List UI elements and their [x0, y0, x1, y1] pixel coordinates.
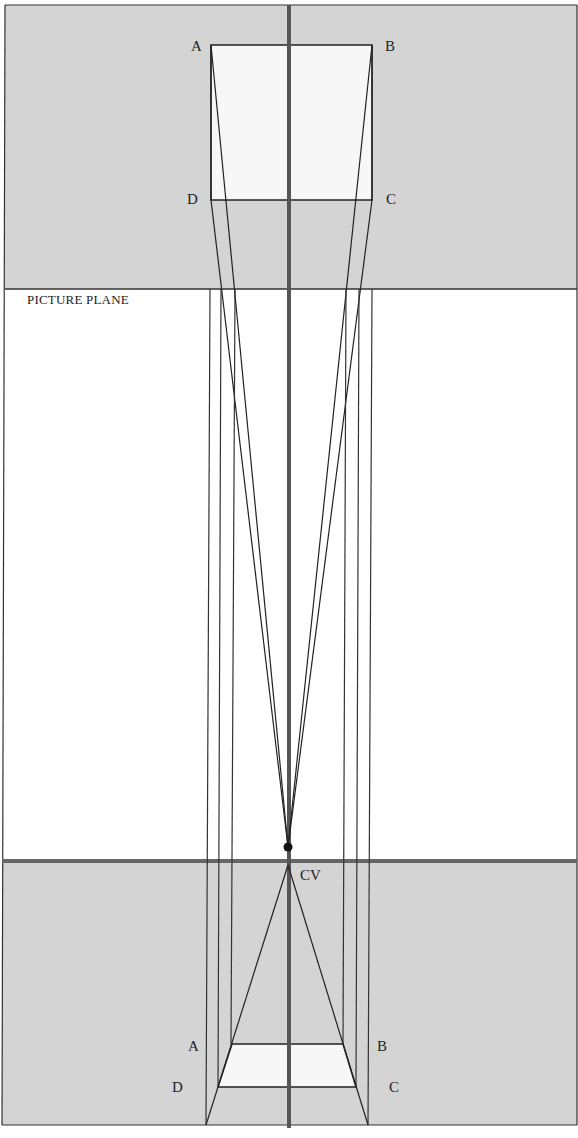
diagram-canvas — [0, 0, 578, 1138]
perspective-label-c: C — [389, 1080, 399, 1095]
perspective-label-d: D — [172, 1080, 183, 1095]
picture-plane-label: PICTURE PLANE — [27, 293, 129, 306]
plan-label-c: C — [386, 192, 396, 207]
center-of-vision-label: CV — [300, 868, 321, 883]
plan-label-d: D — [187, 192, 198, 207]
perspective-diagram: A B D C PICTURE PLANE CV A B D C — [0, 0, 578, 1138]
perspective-label-b: B — [377, 1039, 387, 1054]
plan-label-a: A — [191, 39, 202, 54]
station-point — [284, 843, 293, 852]
perspective-label-a: A — [188, 1039, 199, 1054]
plan-rectangle — [211, 45, 372, 200]
plan-label-b: B — [385, 39, 395, 54]
